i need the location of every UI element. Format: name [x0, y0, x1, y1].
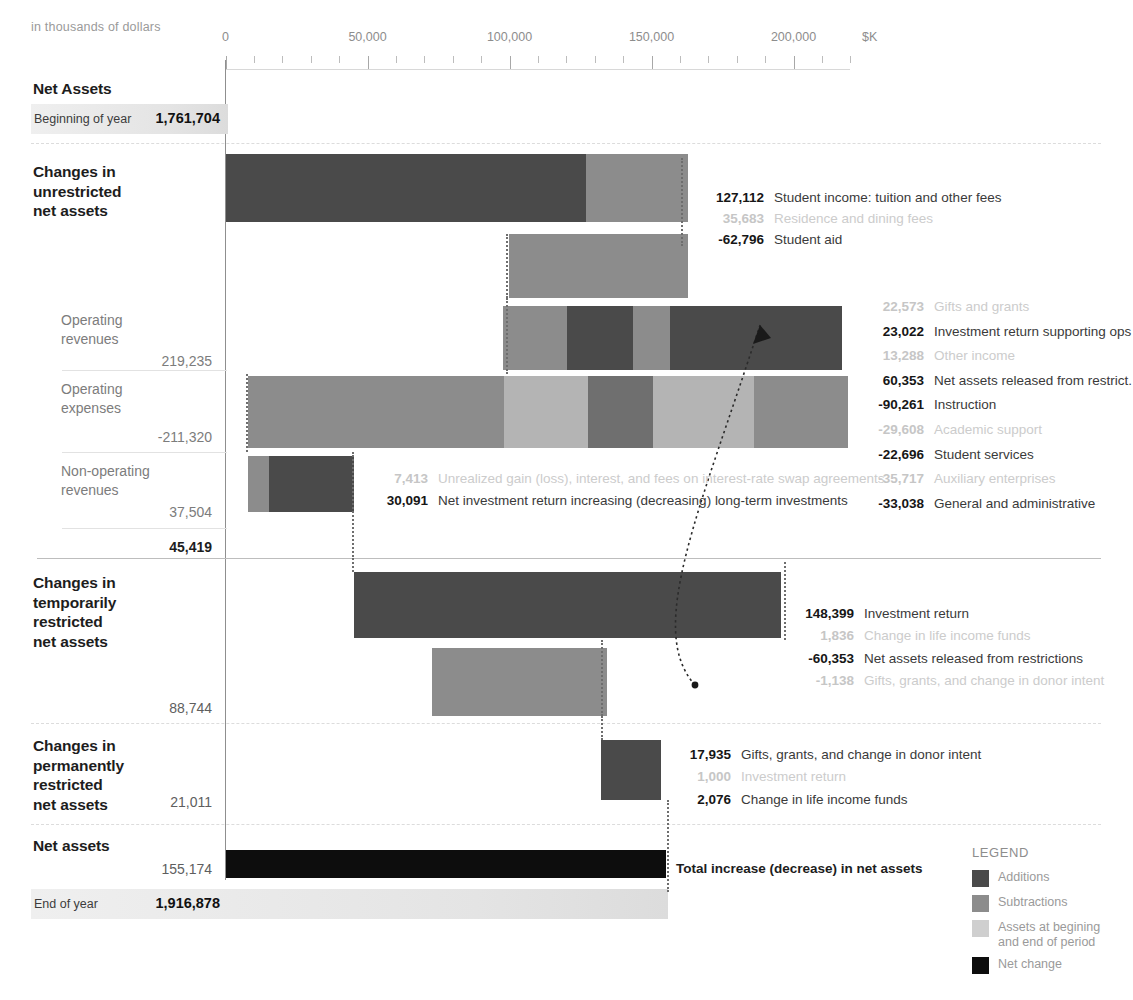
annotation-value: 17,935: [665, 744, 731, 766]
annotation-row: -62,796Student aid: [698, 229, 1001, 250]
annotation-label: Net assets released from restrictions: [864, 648, 1083, 670]
x-axis: 050,000100,000150,000200,000$K: [0, 30, 1133, 75]
bar-segment: [248, 376, 504, 448]
annotation-label: Student income: tuition and other fees: [774, 187, 1001, 208]
annotation-row: 1,000Investment return: [665, 766, 981, 788]
section-title-unrestricted: Changes in unrestricted net assets: [33, 162, 121, 221]
annotation-row: 22,573Gifts and grants: [858, 295, 1132, 320]
section-divider: [31, 824, 1101, 825]
bar-net-change: [226, 850, 667, 878]
annotation-label: Academic support: [934, 418, 1042, 443]
legend-item: Assets at begining and end of period: [972, 920, 1132, 949]
annotation-value: -22,696: [858, 443, 924, 468]
section-title-net-assets-bottom: Net assets: [33, 836, 110, 856]
annotation-label: Net investment return increasing (decrea…: [438, 490, 848, 512]
annotation-label: Investment return: [864, 603, 969, 625]
axis-minor-tick: [311, 56, 312, 63]
annotation-label: Unrealized gain (loss), interest, and fe…: [438, 468, 884, 490]
legend-title: LEGEND: [972, 845, 1132, 860]
connector-line: [601, 716, 603, 740]
axis-minor-tick: [538, 56, 539, 63]
axis-minor-tick: [254, 56, 255, 63]
annotation-label: General and administrative: [934, 492, 1095, 517]
end-of-year-label: End of year: [34, 897, 98, 911]
legend-item: Subtractions: [972, 895, 1132, 912]
annotation-value: -60,353: [788, 648, 854, 670]
connector-line: [246, 374, 248, 452]
annotation-group-temporarily-restricted: 148,399Investment return1,836Change in l…: [788, 603, 1104, 692]
legend-item: Net change: [972, 957, 1132, 974]
axis-minor-tick: [339, 56, 340, 63]
connector-line: [601, 640, 603, 716]
subgroup-divider: [62, 452, 227, 453]
axis-minor-tick: [708, 56, 709, 63]
annotation-label: Auxiliary enterprises: [934, 467, 1056, 492]
annotation-row: -35,717Auxiliary enterprises: [858, 467, 1132, 492]
annotation-value: 127,112: [698, 187, 764, 208]
connector-line: [667, 800, 669, 892]
annotation-value: -62,796: [698, 229, 764, 250]
axis-tick-label: 50,000: [348, 30, 386, 44]
annotation-row: -60,353Net assets released from restrict…: [788, 648, 1104, 670]
annotation-group-operating: 22,573Gifts and grants23,022Investment r…: [858, 295, 1132, 516]
bar-segment: [567, 306, 632, 370]
legend-label: Net change: [998, 957, 1062, 972]
bar-segment: [586, 154, 687, 222]
annotation-label: Change in life income funds: [741, 789, 908, 811]
annotation-row: 1,836Change in life income funds: [788, 625, 1104, 647]
connector-line: [352, 562, 354, 572]
annotation-row: 7,413Unrealized gain (loss), interest, a…: [362, 468, 884, 490]
annotation-label: Instruction: [934, 393, 996, 418]
subgroup-label-operating-expenses: Operating expenses: [61, 380, 122, 418]
annotation-label: Student services: [934, 443, 1034, 468]
section-title-net-assets: Net Assets: [33, 79, 112, 99]
legend-swatch: [972, 895, 989, 912]
axis-unit-label: $K: [862, 30, 877, 44]
beginning-of-year-value: 1,761,704: [100, 110, 220, 126]
annotation-label: Net assets released from restrict.: [934, 369, 1132, 394]
annotation-value: 60,353: [858, 369, 924, 394]
connector-line: [506, 234, 508, 298]
annotation-label: Investment return supporting ops: [934, 320, 1131, 345]
annotation-row: 13,288Other income: [858, 344, 1132, 369]
bar-non-operating-revenues: [248, 456, 355, 512]
net-change-value: 155,174: [62, 861, 212, 877]
axis-minor-tick: [680, 56, 681, 63]
annotation-group-unrestricted: 127,112Student income: tuition and other…: [698, 187, 1001, 250]
annotation-value: 1,000: [665, 766, 731, 788]
bar-segment: [269, 456, 354, 512]
annotation-row: -1,138Gifts, grants, and change in donor…: [788, 670, 1104, 692]
section-subtotal-permanently-restricted: 21,011: [62, 794, 212, 810]
connector-line: [352, 452, 354, 560]
annotation-value: 1,836: [788, 625, 854, 647]
connector-line: [506, 298, 508, 374]
legend-items: AdditionsSubtractionsAssets at begining …: [972, 870, 1132, 974]
bar-segment: [509, 234, 687, 298]
legend-label: Additions: [998, 870, 1049, 885]
bar-segment: [432, 648, 603, 716]
section-divider: [31, 723, 1101, 724]
axis-minor-tick: [453, 56, 454, 63]
net-change-annotation: Total increase (decrease) in net assets: [676, 859, 923, 879]
axis-tick-label: 150,000: [629, 30, 674, 44]
annotation-row: -29,608Academic support: [858, 418, 1132, 443]
bar-unrestricted-revenue: [226, 154, 688, 222]
annotation-label: Gifts, grants, and change in donor inten…: [864, 670, 1104, 692]
annotation-value: 148,399: [788, 603, 854, 625]
annotation-value: 13,288: [858, 344, 924, 369]
bar-segment: [604, 648, 607, 716]
subgroup-label-non-operating-revenues: Non-operating revenues: [61, 462, 150, 500]
annotation-label: Residence and dining fees: [774, 208, 933, 229]
legend-swatch: [972, 957, 989, 974]
axis-major-tick: [368, 56, 369, 70]
legend-item: Additions: [972, 870, 1132, 887]
axis-major-tick: [510, 56, 511, 70]
bar-segment: [503, 306, 567, 370]
subgroup-total-operating-revenues: 219,235: [62, 353, 212, 369]
annotation-value: -90,261: [858, 393, 924, 418]
section-divider: [31, 143, 1101, 144]
annotation-value: 30,091: [362, 490, 428, 512]
annotation-value: 22,573: [858, 295, 924, 320]
annotation-value: 35,683: [698, 208, 764, 229]
annotation-label: Student aid: [774, 229, 842, 250]
